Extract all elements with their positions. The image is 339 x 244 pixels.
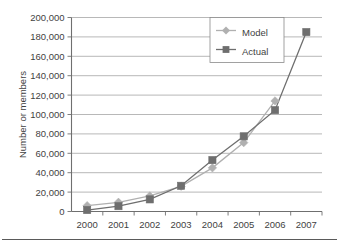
data-point-actual-2006	[271, 107, 278, 114]
x-axis-tick-label: 2003	[171, 219, 192, 230]
data-point-actual-2005	[240, 133, 247, 140]
data-point-actual-2004	[209, 156, 216, 163]
y-axis-tick-label: 120,000	[30, 90, 64, 101]
x-axis-tick-label: 2004	[202, 219, 223, 230]
legend-label-actual: Actual	[242, 46, 268, 57]
data-point-actual-2001	[115, 203, 122, 210]
data-point-actual-2007	[303, 28, 310, 35]
line-chart: 020,00040,00060,00080,000100,000120,0001…	[0, 0, 339, 244]
y-axis-tick-label: 60,000	[35, 148, 64, 159]
y-axis-tick-label: 200,000	[30, 12, 64, 23]
x-axis-tick-label: 2002	[139, 219, 160, 230]
x-axis-tick-label: 2007	[296, 219, 317, 230]
chart-figure: 020,00040,00060,00080,000100,000120,0001…	[0, 0, 339, 244]
y-axis-tick-label: 100,000	[30, 109, 64, 120]
legend-square-marker	[223, 46, 230, 53]
legend-label-model: Model	[242, 27, 268, 38]
y-axis-tick-label: 180,000	[30, 31, 64, 42]
y-axis-tick-label: 140,000	[30, 70, 64, 81]
data-point-actual-2002	[146, 196, 153, 203]
y-axis-title: Number or members	[17, 71, 28, 158]
x-axis-tick-label: 2006	[264, 219, 285, 230]
y-axis-tick-label: 160,000	[30, 51, 64, 62]
y-axis-tick-label: 20,000	[35, 187, 64, 198]
y-axis-tick-label: 40,000	[35, 167, 64, 178]
data-point-actual-2000	[84, 206, 91, 213]
x-axis-tick-label: 2005	[233, 219, 254, 230]
y-axis-tick-label: 80,000	[35, 128, 64, 139]
data-point-actual-2003	[177, 182, 184, 189]
x-axis-tick-label: 2000	[77, 219, 98, 230]
x-axis-tick-label: 2001	[108, 219, 129, 230]
y-axis-tick-label: 0	[59, 206, 64, 217]
